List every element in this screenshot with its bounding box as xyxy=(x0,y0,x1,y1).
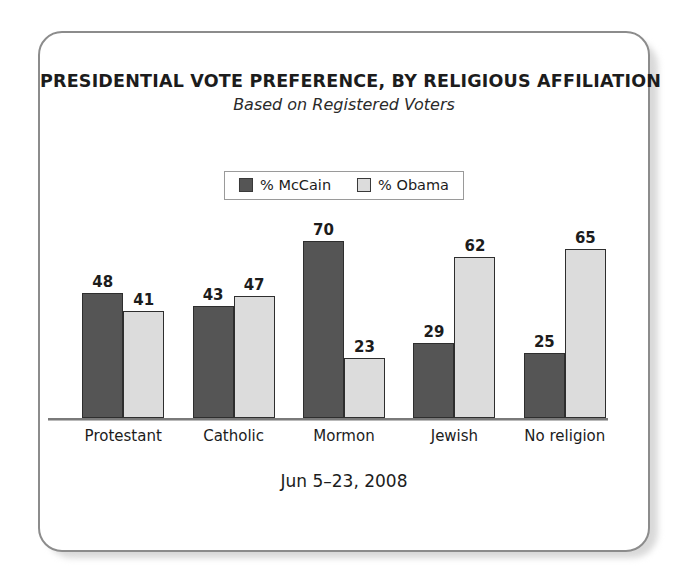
bar-obama[interactable] xyxy=(123,311,164,418)
bar-obama[interactable] xyxy=(344,358,385,418)
chart-date-caption: Jun 5–23, 2008 xyxy=(40,471,648,491)
bar-value-label: 43 xyxy=(203,288,224,303)
bar-value-label: 23 xyxy=(354,340,375,355)
bar-value-label: 48 xyxy=(92,275,113,290)
bar-wrapper: 65 xyxy=(565,223,606,418)
page-title: PRESIDENTIAL VOTE PREFERENCE, BY RELIGIO… xyxy=(40,71,648,91)
bar-value-label: 41 xyxy=(133,293,154,308)
bar-groups: 48414347702329622565 xyxy=(68,223,620,418)
bar-wrapper: 48 xyxy=(82,223,123,418)
category-label: Jewish xyxy=(399,427,509,445)
bar-value-label: 65 xyxy=(575,231,596,246)
legend-item-obama: % Obama xyxy=(357,177,449,193)
bar-value-label: 70 xyxy=(313,223,334,238)
legend-label-obama: % Obama xyxy=(378,177,449,193)
bar-mccain[interactable] xyxy=(413,343,454,418)
bar-group: 2962 xyxy=(399,223,509,418)
bar-wrapper: 29 xyxy=(413,223,454,418)
legend-swatch-obama xyxy=(357,178,371,192)
bar-obama[interactable] xyxy=(454,257,495,418)
bar-mccain[interactable] xyxy=(82,293,123,418)
bar-wrapper: 47 xyxy=(234,223,275,418)
bar-mccain[interactable] xyxy=(193,306,234,418)
bar-obama[interactable] xyxy=(565,249,606,418)
chart-legend: % McCain % Obama xyxy=(224,171,464,200)
bar-value-label: 25 xyxy=(534,335,555,350)
legend-item-mccain: % McCain xyxy=(239,177,331,193)
bar-mccain[interactable] xyxy=(524,353,565,418)
bar-group: 7023 xyxy=(289,223,399,418)
bar-wrapper: 43 xyxy=(193,223,234,418)
category-label: Protestant xyxy=(68,427,178,445)
page-subtitle: Based on Registered Voters xyxy=(40,95,648,114)
chart-card: PRESIDENTIAL VOTE PREFERENCE, BY RELIGIO… xyxy=(38,31,650,552)
bar-wrapper: 62 xyxy=(454,223,495,418)
x-axis-line xyxy=(48,418,608,420)
chart-page: PRESIDENTIAL VOTE PREFERENCE, BY RELIGIO… xyxy=(0,0,683,586)
bar-obama[interactable] xyxy=(234,296,275,418)
bar-wrapper: 70 xyxy=(303,223,344,418)
bar-wrapper: 25 xyxy=(524,223,565,418)
category-label: Catholic xyxy=(178,427,288,445)
category-label: No religion xyxy=(510,427,620,445)
bar-value-label: 62 xyxy=(464,239,485,254)
bar-group: 2565 xyxy=(510,223,620,418)
bar-value-label: 47 xyxy=(244,278,265,293)
bar-group: 4347 xyxy=(178,223,288,418)
legend-swatch-mccain xyxy=(239,178,253,192)
bar-wrapper: 23 xyxy=(344,223,385,418)
bar-wrapper: 41 xyxy=(123,223,164,418)
x-axis-category-labels: ProtestantCatholicMormonJewishNo religio… xyxy=(68,427,620,445)
chart-plot-area: 48414347702329622565 xyxy=(68,223,620,418)
legend-label-mccain: % McCain xyxy=(260,177,331,193)
bar-group: 4841 xyxy=(68,223,178,418)
category-label: Mormon xyxy=(289,427,399,445)
bar-value-label: 29 xyxy=(423,325,444,340)
bar-mccain[interactable] xyxy=(303,241,344,418)
